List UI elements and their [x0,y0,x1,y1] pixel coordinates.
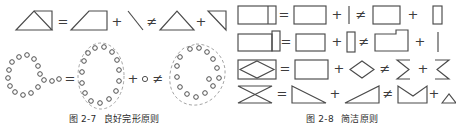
shape-triangle-down-right [292,86,326,103]
operator-not-equals: ≠ [383,86,394,101]
shape-right-bracket-chevron [435,60,449,79]
shape-narrow-tall-rect [347,32,355,52]
shape-v-notch-top [398,86,427,103]
figure-board: = + ≠ + [0,0,456,130]
operator-plus: + [128,71,139,86]
operator-equals: = [279,7,290,22]
shape-flat-triangle [442,94,456,103]
shape-rect-wide [294,6,326,24]
figure-2-7-caption-title: 良好完形原则 [104,114,160,124]
shape-two-overlapping-dot-rings [6,53,62,98]
shape-triangle [160,11,194,30]
figure-2-7-panel: = + ≠ + [0,0,228,130]
shape-right-trapezoid [71,11,107,30]
row-4: = + ≠ + [238,86,456,103]
operator-plus: + [415,34,426,49]
shape-right-triangle [208,11,226,30]
row-shapes: = + ≠ + [16,11,226,30]
operator-not-equals: ≠ [153,71,164,86]
operator-plus: + [334,61,345,76]
row-3: = + ≠ + [238,60,449,79]
figure-2-7-caption-number: 图 2-7 [69,114,97,124]
shape-left-bracket-chevron [397,60,410,79]
shape-notched-rect [375,30,408,51]
operator-equals: = [58,14,69,29]
shape-triangle-in-box-composite [16,11,52,30]
shape-single-dot [142,76,147,81]
shape-rect-wide [296,34,325,51]
shape-dot-ellipse-grouped [78,43,124,109]
operator-equals: = [65,71,76,86]
shape-dot-blob-irregular [170,44,225,105]
figure-2-7-artwork: = + ≠ + [0,0,228,110]
shape-rect-with-inner-divider [238,6,276,24]
figure-2-8-panel: = + ≠ + [228,0,456,130]
shape-bowtie [238,86,272,103]
operator-not-equals: ≠ [356,7,367,22]
figure-2-8-caption: 图 2-8简洁原则 [228,112,456,125]
figure-2-8-caption-number: 图 2-8 [306,114,334,124]
figure-2-7-caption: 图 2-7良好完形原则 [0,112,228,125]
operator-plus: + [196,14,207,29]
shape-narrow-rect [433,6,442,24]
operator-equals: = [281,34,292,49]
row-2: = + ≠ + [238,30,438,52]
shape-rect-with-tall-flap [238,31,280,51]
row-1: = + ≠ + [238,6,442,24]
operator-plus: + [429,86,440,101]
shape-diamond [350,61,374,78]
operator-not-equals: ≠ [359,34,370,49]
operator-not-equals: ≠ [147,14,158,29]
operator-plus: + [332,34,343,49]
operator-plus: + [332,7,343,22]
operator-plus: + [408,7,419,22]
figure-2-8-caption-title: 简洁原则 [341,114,378,124]
operator-plus: + [112,14,123,29]
shape-rect-square [373,6,400,24]
operator-equals: = [280,61,291,76]
shape-rect-wide [295,60,328,79]
shape-diagonal-stroke [128,11,143,30]
operator-not-equals: ≠ [380,61,391,76]
row-dots: = [6,43,225,109]
operator-plus: + [418,61,429,76]
shape-rect-with-inner-diamond [238,60,276,79]
operator-plus: + [330,86,341,101]
figure-2-8-artwork: = + ≠ + [228,0,456,110]
operator-equals: = [277,86,288,101]
shape-triangle-up-right [345,86,379,103]
